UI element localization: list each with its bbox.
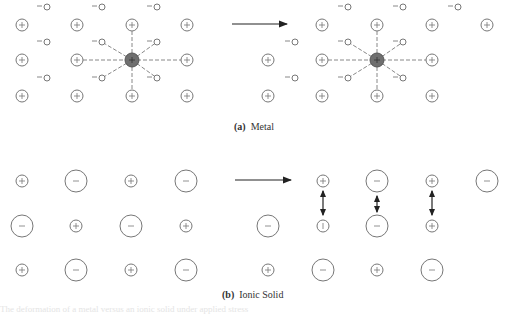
ionic-lattice-before [11,170,197,281]
electrons [285,4,461,81]
repulsion-arrows [323,191,432,215]
caption-b: (b) Ionic Solid [222,289,283,300]
caption-a-title: Metal [251,121,274,132]
figure-canvas [0,0,507,314]
bleed-through-text: The deformation of a metal versus an ion… [0,304,507,314]
center-ion [370,53,384,67]
electrons [37,4,160,81]
caption-b-label: (b) [222,289,234,300]
ionic-lattice-after [257,170,498,281]
center-ion [125,53,139,67]
caption-b-title: Ionic Solid [239,289,283,300]
metal-lattice-before [16,4,193,102]
caption-a: (a) Metal [234,121,274,132]
metal-lattice-after [262,4,493,102]
caption-a-label: (a) [234,121,246,132]
